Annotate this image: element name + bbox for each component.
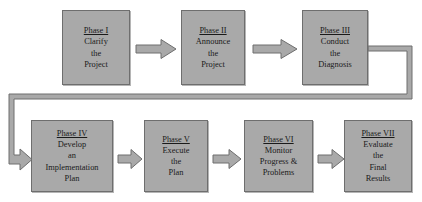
phase-box-6[interactable]: Phase VI Monitor Progress & Problems — [244, 120, 313, 192]
phase-4-line-3: Implementation — [45, 162, 98, 173]
phase-7-line-3: Final — [369, 162, 386, 173]
phase-7-line-1: Evaluate — [363, 139, 392, 150]
flowchart-canvas: Phase I Clarify the Project Phase II Ann… — [0, 0, 422, 202]
phase-4-line-4: Plan — [65, 173, 80, 184]
phase-1-line-3: Project — [84, 59, 108, 70]
phase-box-5[interactable]: Phase V Execute the Plan — [144, 120, 208, 192]
phase-2-line-3: Project — [201, 59, 225, 70]
arrow-phase5-to-phase6 — [212, 148, 242, 170]
phase-6-line-2: Progress & — [260, 156, 297, 167]
phase-6-line-1: Monitor — [265, 145, 292, 156]
arrow-phase1-to-phase2 — [135, 38, 177, 60]
phase-7-line-2: the — [373, 150, 383, 161]
phase-2-title: Phase II — [199, 25, 226, 36]
phase-5-line-3: Plan — [169, 167, 184, 178]
arrow-phase4-to-phase5 — [117, 148, 143, 170]
phase-4-title: Phase IV — [57, 128, 87, 139]
phase-2-line-1: Announce — [196, 36, 230, 47]
phase-6-line-3: Problems — [263, 167, 295, 178]
phase-box-2[interactable]: Phase II Announce the Project — [181, 10, 245, 85]
arrow-phase6-to-phase7 — [317, 148, 345, 170]
phase-5-title: Phase V — [162, 134, 190, 145]
phase-1-line-2: the — [91, 48, 101, 59]
phase-5-line-2: the — [171, 156, 181, 167]
phase-6-title: Phase VI — [263, 134, 293, 145]
phase-3-line-1: Conduct — [321, 36, 349, 47]
phase-3-title: Phase III — [320, 25, 350, 36]
phase-3-line-3: Diagnosis — [318, 59, 352, 70]
phase-1-title: Phase I — [84, 25, 108, 36]
phase-7-line-4: Results — [366, 173, 391, 184]
phase-1-line-1: Clarify — [84, 36, 108, 47]
phase-4-line-2: an — [68, 150, 76, 161]
phase-box-3[interactable]: Phase III Conduct the Diagnosis — [302, 10, 368, 85]
phase-5-line-1: Execute — [163, 145, 190, 156]
phase-box-7[interactable]: Phase VII Evaluate the Final Results — [344, 120, 412, 192]
phase-box-1[interactable]: Phase I Clarify the Project — [62, 10, 130, 85]
phase-2-line-2: the — [208, 48, 218, 59]
phase-box-4[interactable]: Phase IV Develop an Implementation Plan — [31, 120, 113, 192]
phase-7-title: Phase VII — [361, 128, 394, 139]
phase-4-line-1: Develop — [58, 139, 86, 150]
phase-3-line-2: the — [330, 48, 340, 59]
arrow-phase2-to-phase3 — [252, 38, 298, 60]
